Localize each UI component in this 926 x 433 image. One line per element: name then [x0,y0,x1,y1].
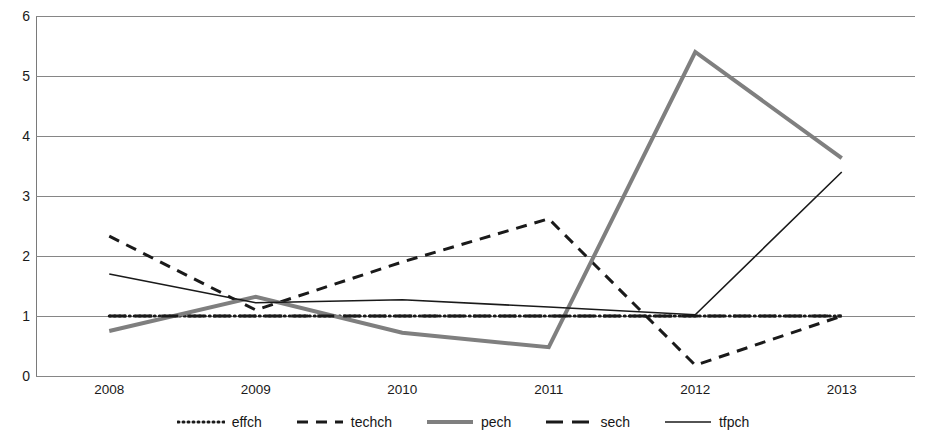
gridline-4 [36,136,915,137]
legend-swatch-sech [545,416,593,428]
legend-item-tfpch[interactable]: tfpch [664,415,749,429]
x-tick-label-2010: 2010 [387,382,417,398]
y-tick-label: 2 [4,249,30,263]
line-chart: 0123456 200820092010201120122013 effchte… [0,0,926,433]
y-axis: 0123456 [0,16,30,376]
legend-item-pech[interactable]: pech [426,415,511,429]
legend-item-sech[interactable]: sech [545,415,630,429]
y-tick-label: 6 [4,9,30,23]
legend-item-effch[interactable]: effch [177,415,262,429]
y-tick-label: 4 [4,129,30,143]
y-tick-label: 0 [4,369,30,383]
legend-label: sech [600,415,630,429]
x-tick-label-2012: 2012 [680,382,710,398]
x-tick-label-2009: 2009 [241,382,271,398]
legend-swatch-techch [296,416,344,428]
legend-swatch-tfpch [664,416,712,428]
y-tick-label: 3 [4,189,30,203]
legend-label: tfpch [719,415,749,429]
x-tick-label-2008: 2008 [94,382,124,398]
legend-label: techch [351,415,392,429]
x-axis: 200820092010201120122013 [36,382,915,404]
gridline-3 [36,196,915,197]
chart-legend: effchtechchpechsechtfpch [0,410,926,433]
legend-label: effch [232,415,262,429]
legend-item-techch[interactable]: techch [296,415,392,429]
gridline-5 [36,76,915,77]
gridline-2 [36,256,915,257]
gridline-6 [36,16,915,17]
gridline-1 [36,316,915,317]
plot-area [36,16,915,376]
y-tick-label: 5 [4,69,30,83]
legend-label: pech [481,415,511,429]
gridline-0 [36,376,915,377]
x-tick-label-2011: 2011 [534,382,563,398]
x-tick-label-2013: 2013 [827,382,857,398]
legend-swatch-effch [177,416,225,428]
legend-swatch-pech [426,416,474,428]
y-tick-label: 1 [4,309,30,323]
